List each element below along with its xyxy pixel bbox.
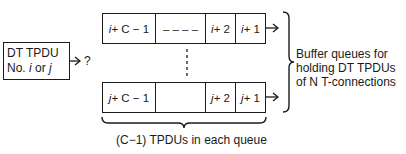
queue-cell: i + C − 1 xyxy=(103,14,156,43)
queue-size-label: (C−1) TPDUs in each queue xyxy=(116,133,267,147)
queue-cell: i + 2 xyxy=(206,14,236,43)
source-line1: DT TPDU xyxy=(7,46,69,61)
buffer-queue-j: j + C − 1 j + 2 j + 1 xyxy=(102,82,266,113)
queue-cell: j + C − 1 xyxy=(103,83,156,112)
queue-cell-ellipsis: – – – – xyxy=(156,14,206,43)
queue-cell: j + 1 xyxy=(236,83,265,112)
queue-cell: i + 1 xyxy=(236,14,265,43)
buffer-queue-i: i + C − 1 – – – – i + 2 i + 1 xyxy=(102,13,266,44)
queue-cell-empty xyxy=(156,83,206,112)
question-mark: ? xyxy=(84,54,91,68)
source-line2: No. i or j xyxy=(7,61,69,76)
buffer-queues-label: Buffer queues for holding DT TPDUs of N … xyxy=(296,47,396,89)
queue-cell: j + 2 xyxy=(206,83,236,112)
source-tpdu-box: DT TPDU No. i or j xyxy=(3,42,70,80)
